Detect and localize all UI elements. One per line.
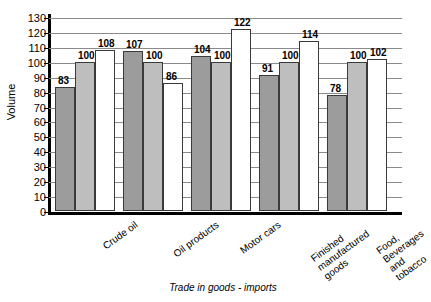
y-axis-tick-mark bbox=[44, 108, 49, 109]
y-axis-tick-mark bbox=[44, 48, 49, 49]
y-axis-tick-label: 70 bbox=[6, 103, 46, 114]
plot-area: 0102030405060708090100110120130 83100108… bbox=[48, 18, 402, 214]
bar-group: 83100108 bbox=[55, 20, 115, 211]
bar-value-label: 108 bbox=[98, 39, 115, 49]
bar bbox=[123, 51, 143, 211]
bar-value-label: 100 bbox=[214, 51, 231, 61]
bar bbox=[299, 41, 319, 211]
bar-group: 104100122 bbox=[191, 20, 251, 211]
x-axis-title: Trade in goods - imports bbox=[0, 282, 402, 293]
bar-value-label: 104 bbox=[194, 45, 211, 55]
y-axis-tick-mark bbox=[44, 152, 49, 153]
bar-group: 10710086 bbox=[123, 20, 183, 211]
bar-group: 91100114 bbox=[259, 20, 319, 211]
x-axis-category-label: Food, Beverages and tobacco bbox=[374, 219, 431, 283]
y-axis-tick-mark bbox=[44, 197, 49, 198]
bar bbox=[211, 62, 231, 211]
y-axis-tick-mark bbox=[44, 78, 49, 79]
y-axis-tick-label: 60 bbox=[6, 117, 46, 128]
x-axis-category-label: Finished manufactured goods bbox=[309, 219, 378, 282]
gridline bbox=[48, 18, 402, 19]
y-axis-tick-label: 110 bbox=[6, 43, 46, 54]
y-axis-tick-label: 10 bbox=[6, 192, 46, 203]
x-axis-category-label: Motor cars bbox=[238, 219, 283, 256]
y-axis-tick-label: 90 bbox=[6, 73, 46, 84]
bar bbox=[347, 62, 367, 211]
bar-value-label: 122 bbox=[234, 18, 251, 28]
x-axis-line bbox=[48, 212, 402, 215]
bar-value-label: 100 bbox=[146, 51, 163, 61]
bar-value-label: 91 bbox=[262, 64, 273, 74]
y-axis-tick-mark bbox=[44, 63, 49, 64]
bar bbox=[327, 95, 347, 211]
bar bbox=[55, 87, 75, 211]
y-axis-tick-label: 100 bbox=[6, 58, 46, 69]
y-axis-tick-label: 0 bbox=[6, 207, 46, 218]
bar-value-label: 107 bbox=[126, 40, 143, 50]
y-axis-tick-mark bbox=[44, 18, 49, 19]
bar-value-label: 114 bbox=[302, 30, 318, 40]
bar bbox=[259, 75, 279, 211]
bar bbox=[191, 56, 211, 211]
bar bbox=[163, 83, 183, 211]
y-axis-tick-label: 80 bbox=[6, 88, 46, 99]
y-axis-tick-mark bbox=[44, 212, 49, 213]
bar-value-label: 86 bbox=[166, 72, 177, 82]
y-axis-line bbox=[48, 14, 51, 214]
bar bbox=[367, 59, 387, 211]
bar bbox=[143, 62, 163, 211]
y-axis-tick-label: 20 bbox=[6, 177, 46, 188]
y-axis-tick-label: 120 bbox=[6, 28, 46, 39]
y-axis-tick-mark bbox=[44, 93, 49, 94]
bar bbox=[95, 50, 115, 211]
bar-group: 78100102 bbox=[327, 20, 387, 211]
bar bbox=[279, 62, 299, 211]
y-axis-tick-mark bbox=[44, 33, 49, 34]
y-axis-tick-label: 130 bbox=[6, 13, 46, 24]
y-axis-tick-mark bbox=[44, 122, 49, 123]
x-axis-category-label: Oil products bbox=[171, 219, 221, 259]
bar-value-label: 100 bbox=[78, 51, 95, 61]
y-axis-tick-label: 30 bbox=[6, 162, 46, 173]
y-axis-tick-label: 40 bbox=[6, 147, 46, 158]
x-axis-category-label: Crude oil bbox=[101, 219, 140, 251]
bar bbox=[231, 29, 251, 211]
y-axis-tick-mark bbox=[44, 167, 49, 168]
bar-value-label: 83 bbox=[58, 76, 69, 86]
bar-value-label: 78 bbox=[330, 84, 341, 94]
y-axis-tick-label: 50 bbox=[6, 132, 46, 143]
y-axis-tick-mark bbox=[44, 182, 49, 183]
bar-value-label: 100 bbox=[350, 51, 367, 61]
bar bbox=[75, 62, 95, 211]
bar-value-label: 100 bbox=[282, 51, 299, 61]
y-axis-tick-mark bbox=[44, 137, 49, 138]
bar-value-label: 102 bbox=[370, 48, 387, 58]
